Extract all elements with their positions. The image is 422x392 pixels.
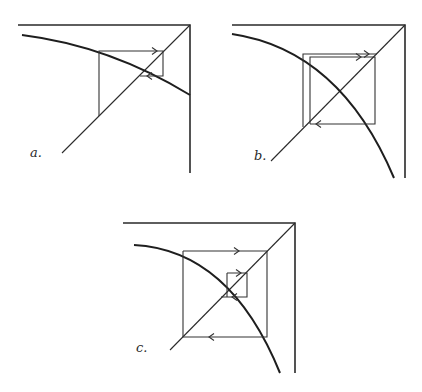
panel-label: a. bbox=[30, 145, 42, 160]
panel-b: b. bbox=[232, 25, 405, 178]
diagonal-line bbox=[271, 25, 405, 161]
panel-label: c. bbox=[136, 340, 147, 355]
panel-a: a. bbox=[18, 25, 190, 173]
panel-label: b. bbox=[254, 148, 266, 163]
axis-frame bbox=[18, 25, 190, 173]
map-curve bbox=[22, 35, 190, 95]
panel-c: c. bbox=[123, 223, 295, 373]
map-curve bbox=[134, 245, 280, 373]
cobweb-inner-path bbox=[310, 57, 375, 124]
cobweb-figure: a. b. c. bbox=[0, 0, 422, 392]
diagonal-line bbox=[62, 25, 190, 153]
diagonal-line bbox=[170, 223, 295, 350]
